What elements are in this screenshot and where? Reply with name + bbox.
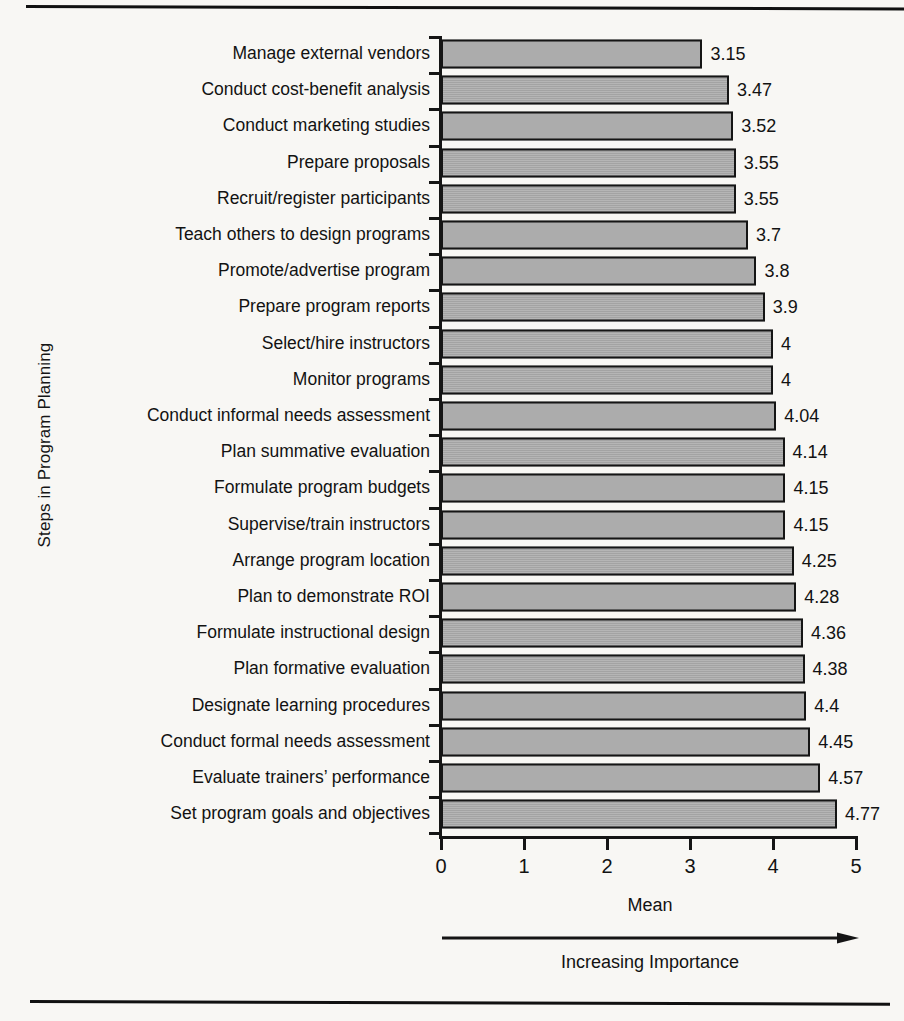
bar-value-label: 3.47 xyxy=(737,81,772,99)
bar-value-label: 4.15 xyxy=(793,516,828,534)
bar-row: Conduct informal needs assessment4.04 xyxy=(0,398,904,434)
category-label: Designate learning procedures xyxy=(192,697,430,715)
y-axis-tick xyxy=(429,181,441,184)
bar xyxy=(441,546,794,575)
category-label: Conduct marketing studies xyxy=(223,118,430,136)
bar-value-label: 4.36 xyxy=(811,624,846,642)
x-axis-tick xyxy=(855,836,858,850)
category-label: Formulate instructional design xyxy=(197,624,430,642)
x-axis-title: Mean xyxy=(441,895,859,916)
bar-row: Plan formative evaluation4.38 xyxy=(0,651,904,687)
bar xyxy=(441,510,785,539)
category-label: Monitor programs xyxy=(293,371,430,389)
bar-value-label: 4.28 xyxy=(804,588,839,606)
category-label: Conduct cost-benefit analysis xyxy=(201,81,430,99)
bar-value-label: 4.25 xyxy=(802,552,837,570)
x-axis-tick xyxy=(606,836,609,850)
bar-row: Recruit/register participants3.55 xyxy=(0,181,904,217)
bar xyxy=(441,148,736,177)
bar-value-label: 4 xyxy=(781,335,791,353)
x-axis-tick xyxy=(440,836,443,850)
bar xyxy=(441,112,733,141)
bar-row: Conduct marketing studies3.52 xyxy=(0,108,904,144)
bar-row: Teach others to design programs3.7 xyxy=(0,217,904,253)
bar xyxy=(441,727,810,756)
bar-value-label: 4.4 xyxy=(814,697,839,715)
bar xyxy=(441,365,773,394)
bar xyxy=(441,800,837,829)
y-axis-tick xyxy=(429,289,441,292)
bar xyxy=(441,438,785,467)
y-axis-tick xyxy=(429,724,441,727)
plot-area: Manage external vendors3.15Conduct cost-… xyxy=(0,0,904,880)
category-label: Prepare program reports xyxy=(238,299,430,317)
y-axis-tick xyxy=(429,253,441,256)
bar-value-label: 4.04 xyxy=(784,407,819,425)
category-label: Promote/advertise program xyxy=(218,262,430,280)
category-label: Plan formative evaluation xyxy=(234,661,431,679)
x-axis-tick-label: 5 xyxy=(836,855,876,878)
bar-row: Supervise/train instructors4.15 xyxy=(0,507,904,543)
bar-row: Conduct formal needs assessment4.45 xyxy=(0,724,904,760)
category-label: Conduct informal needs assessment xyxy=(147,407,430,425)
x-axis-spine xyxy=(439,836,858,839)
bar-row: Manage external vendors3.15 xyxy=(0,36,904,72)
bar xyxy=(441,402,776,431)
category-label: Formulate program budgets xyxy=(214,480,430,498)
bar-value-label: 4.77 xyxy=(845,805,880,823)
y-axis-tick xyxy=(429,217,441,220)
y-axis-tick xyxy=(429,398,441,401)
bar-row: Set program goals and objectives4.77 xyxy=(0,796,904,832)
category-label: Set program goals and objectives xyxy=(170,805,430,823)
category-label: Plan to demonstrate ROI xyxy=(237,588,430,606)
category-label: Recruit/register participants xyxy=(217,190,430,208)
bar-value-label: 3.8 xyxy=(764,262,789,280)
bar-row: Arrange program location4.25 xyxy=(0,543,904,579)
bar-row: Select/hire instructors4 xyxy=(0,326,904,362)
bar-value-label: 3.15 xyxy=(710,45,745,63)
bar-row: Plan summative evaluation4.14 xyxy=(0,434,904,470)
bar-row: Formulate instructional design4.36 xyxy=(0,615,904,651)
x-axis-tick xyxy=(689,836,692,850)
bar xyxy=(441,329,773,358)
bar-value-label: 4.15 xyxy=(793,479,828,497)
bar xyxy=(441,40,702,69)
bar xyxy=(441,655,805,684)
bar-row: Prepare program reports3.9 xyxy=(0,289,904,325)
bar-value-label: 4.38 xyxy=(813,660,848,678)
bar xyxy=(441,76,729,105)
bar-value-label: 4.14 xyxy=(793,443,828,461)
y-axis-tick xyxy=(429,326,441,329)
bar xyxy=(441,691,806,720)
y-axis-tick xyxy=(429,760,441,763)
y-axis-tick xyxy=(429,434,441,437)
category-label: Evaluate trainers’ performance xyxy=(192,769,430,787)
bar-row: Monitor programs4 xyxy=(0,362,904,398)
x-axis-tick-label: 3 xyxy=(670,855,710,878)
bar-value-label: 3.55 xyxy=(744,154,779,172)
bar xyxy=(441,583,796,612)
x-axis-tick xyxy=(523,836,526,850)
category-label: Manage external vendors xyxy=(233,45,430,63)
y-axis-tick xyxy=(429,579,441,582)
category-label: Plan summative evaluation xyxy=(221,443,430,461)
y-axis-tick xyxy=(429,108,441,111)
category-label: Select/hire instructors xyxy=(262,335,430,353)
y-axis-tick xyxy=(429,362,441,365)
bar-value-label: 4 xyxy=(781,371,791,389)
y-axis-tick xyxy=(429,470,441,473)
bar xyxy=(441,474,785,503)
y-axis-tick xyxy=(429,615,441,618)
bar-row: Formulate program budgets4.15 xyxy=(0,470,904,506)
bar-value-label: 3.52 xyxy=(741,117,776,135)
x-axis-tick-label: 4 xyxy=(753,855,793,878)
x-axis-tick-label: 2 xyxy=(587,855,627,878)
y-axis-tick xyxy=(429,688,441,691)
bar-row: Promote/advertise program3.8 xyxy=(0,253,904,289)
y-axis-tick xyxy=(429,507,441,510)
bar xyxy=(441,221,748,250)
figure: Steps in Program Planning Manage externa… xyxy=(0,0,904,1021)
y-axis-tick xyxy=(429,72,441,75)
bar-row: Evaluate trainers’ performance4.57 xyxy=(0,760,904,796)
bar-value-label: 3.7 xyxy=(756,226,781,244)
